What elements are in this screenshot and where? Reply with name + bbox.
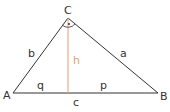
vertex-label-c: C [64, 4, 72, 17]
vertex-label-a: A [3, 89, 11, 102]
side-label-b: b [28, 47, 35, 60]
side-label-c: c [73, 96, 79, 109]
side-label-a: a [120, 47, 127, 60]
segment-label-q: q [37, 79, 44, 92]
altitude-label-h: h [73, 54, 80, 67]
vertex-label-b: B [160, 90, 168, 103]
segment-label-p: p [100, 79, 107, 92]
right-triangle-diagram: C A B b a c h q p [0, 0, 170, 112]
right-angle-dot [68, 23, 70, 25]
side-a [68, 18, 158, 93]
